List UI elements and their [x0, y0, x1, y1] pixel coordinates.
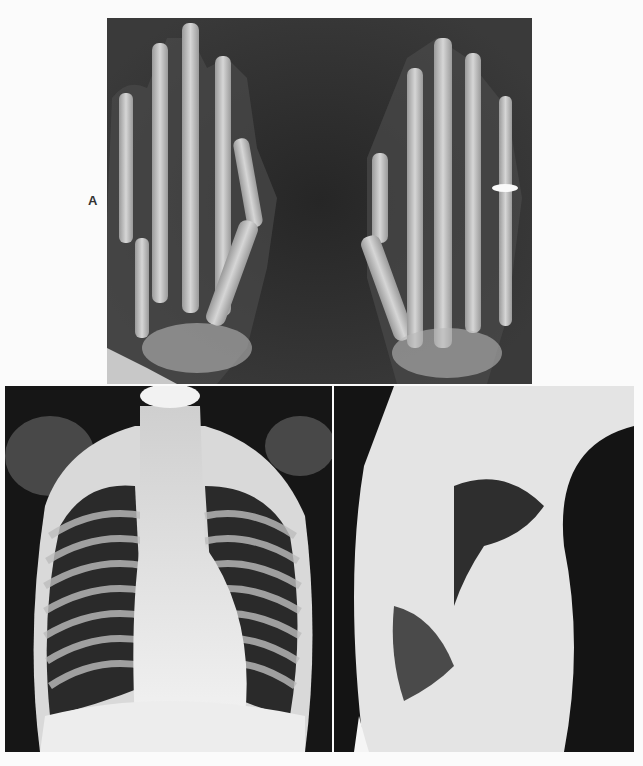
chest-pa-radiograph-image — [5, 386, 332, 752]
chest-pa-radiograph-panel — [5, 386, 332, 752]
panel-label-a: A — [88, 193, 97, 208]
chest-lateral-radiograph-image — [334, 386, 634, 752]
chest-lateral-radiograph-panel — [334, 386, 634, 752]
hand-radiograph-image — [107, 18, 532, 384]
hand-radiograph-panel — [107, 18, 532, 384]
